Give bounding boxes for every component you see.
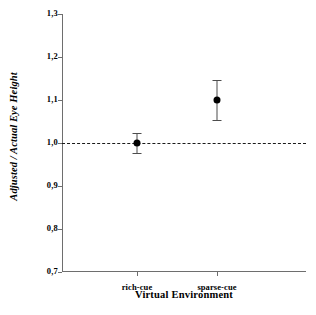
x-tick-mark — [217, 272, 218, 276]
y-tick-label: 0,7 — [47, 266, 58, 276]
y-tick-label: 0,8 — [47, 223, 58, 233]
y-axis-title: Adjusted / Actual Eye Height — [4, 0, 22, 272]
error-bar-cap — [213, 120, 222, 121]
plot-area: 1,31,21,11,00,90,80,7 rich-cuesparse-cue — [62, 14, 306, 272]
y-axis-title-text: Adjusted / Actual Eye Height — [8, 72, 19, 200]
y-tick-mark — [58, 229, 62, 230]
y-tick-label: 0,9 — [47, 180, 58, 190]
x-tick-mark — [137, 272, 138, 276]
y-tick-label: 1,3 — [47, 8, 58, 18]
error-bar-cap — [133, 153, 142, 154]
y-tick-label: 1,2 — [47, 51, 58, 61]
x-axis-title: Virtual Environment — [62, 289, 306, 300]
reference-line — [62, 143, 306, 144]
y-tick-label: 1,0 — [47, 137, 58, 147]
x-axis-line — [62, 271, 306, 272]
chart-figure: Adjusted / Actual Eye Height 1,31,21,11,… — [0, 0, 316, 315]
y-tick-mark — [58, 57, 62, 58]
y-tick-mark — [58, 272, 62, 273]
error-bar-cap — [133, 133, 142, 134]
y-tick-mark — [58, 14, 62, 15]
y-tick-mark — [58, 186, 62, 187]
data-point-marker — [214, 97, 221, 104]
y-tick-label: 1,1 — [47, 94, 58, 104]
y-tick-mark — [58, 100, 62, 101]
data-point-marker — [134, 140, 141, 147]
error-bar-cap — [213, 80, 222, 81]
